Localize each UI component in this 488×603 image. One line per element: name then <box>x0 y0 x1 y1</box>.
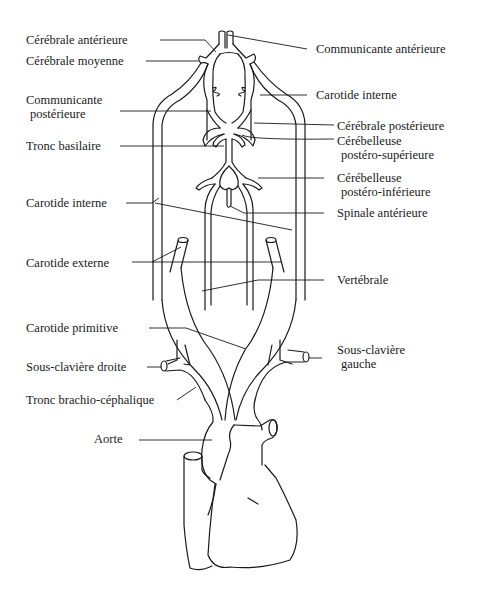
arterial-diagram <box>0 0 488 603</box>
label-carotide-interne-left: Carotide interne <box>26 196 107 210</box>
leader-lines <box>120 35 334 440</box>
common-carotids <box>162 268 296 420</box>
label-cerebelleuse-postero-inferieure: Cérébelleuse postéro-inférieure <box>337 171 431 199</box>
label-spinale-anterieure: Spinale antérieure <box>337 206 428 220</box>
label-tronc-brachio-cephalique: Tronc brachio-céphalique <box>26 393 154 407</box>
external-carotids <box>170 238 284 273</box>
label-aorte: Aorte <box>94 432 122 446</box>
heart-and-aorta <box>184 400 297 570</box>
label-cerebelleuse-postero-superieure: Cérébelleuse postéro-supérieure <box>337 134 434 162</box>
label-line-2: gauche <box>337 357 405 371</box>
label-line-1: Cérébelleuse <box>337 134 402 148</box>
label-sous-claviere-droite: Sous-clavière droite <box>26 360 126 374</box>
label-carotide-externe: Carotide externe <box>26 256 109 270</box>
label-communicante-anterieure: Communicante antérieure <box>316 42 445 56</box>
label-cerebrale-moyenne: Cérébrale moyenne <box>26 54 124 68</box>
label-line-1: Communicante <box>26 93 102 107</box>
label-carotide-primitive: Carotide primitive <box>26 321 118 335</box>
label-line-1: Cérébelleuse <box>337 171 402 185</box>
label-line-2: postérieure <box>26 107 102 121</box>
circle-of-willis <box>196 31 262 310</box>
label-sous-claviere-gauche: Sous-clavière gauche <box>337 343 405 371</box>
label-line-1: Sous-clavière <box>337 343 405 357</box>
label-line-2: postéro-inférieure <box>337 185 431 199</box>
label-tronc-basilaire: Tronc basilaire <box>26 139 101 153</box>
label-cerebrale-anterieure: Cérébrale antérieure <box>26 33 128 47</box>
label-communicante-posterieure: Communicante postérieure <box>26 93 102 121</box>
label-carotide-interne-right: Carotide interne <box>316 88 397 102</box>
label-line-2: postéro-supérieure <box>337 148 434 162</box>
label-vertebrale: Vertébrale <box>337 273 388 287</box>
label-cerebrale-posterieure: Cérébrale postérieure <box>337 119 444 133</box>
